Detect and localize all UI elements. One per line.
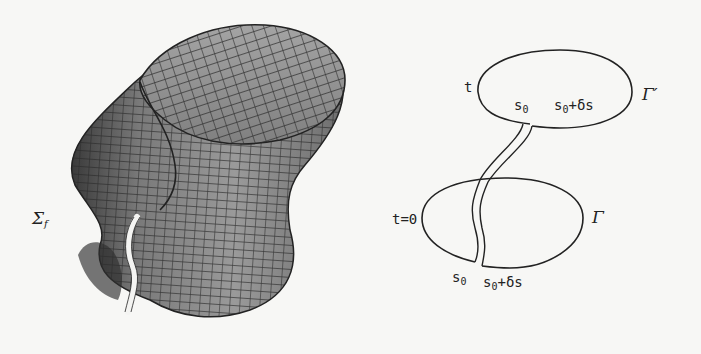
mesh-surface-graphic: [0, 0, 380, 354]
upper-point-s0: s0: [514, 98, 528, 115]
curve-schematic-graphic: [380, 0, 701, 354]
mesh-surface-panel: Σf: [0, 0, 380, 354]
lower-curve-name: Γ: [592, 209, 604, 226]
surface-label: Σf: [32, 210, 48, 229]
figure: Σf t s0 s0+δs Γ′ t=0 s0 s0+δs Γ: [0, 0, 701, 354]
upper-point-s0-plus-ds: s0+δs: [554, 98, 594, 115]
lower-time-label: t=0: [392, 212, 417, 226]
upper-time-label: t: [464, 80, 472, 94]
lower-point-s0: s0: [452, 270, 466, 287]
curve-schematic-panel: t s0 s0+δs Γ′ t=0 s0 s0+δs Γ: [380, 0, 701, 354]
upper-curve-name: Γ′: [642, 86, 658, 103]
lower-point-s0-plus-ds: s0+δs: [483, 275, 523, 292]
